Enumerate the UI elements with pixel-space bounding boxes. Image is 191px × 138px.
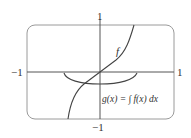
y-top-label: 1 xyxy=(97,10,103,22)
chart: −1 1 1 −1 f g(x) = ∫ f(x) dx xyxy=(0,0,191,138)
x-left-label: −1 xyxy=(11,66,23,78)
x-right-label: 1 xyxy=(177,66,183,78)
g-label: g(x) = ∫ f(x) dx xyxy=(102,94,159,105)
y-bottom-label: −1 xyxy=(92,121,104,133)
